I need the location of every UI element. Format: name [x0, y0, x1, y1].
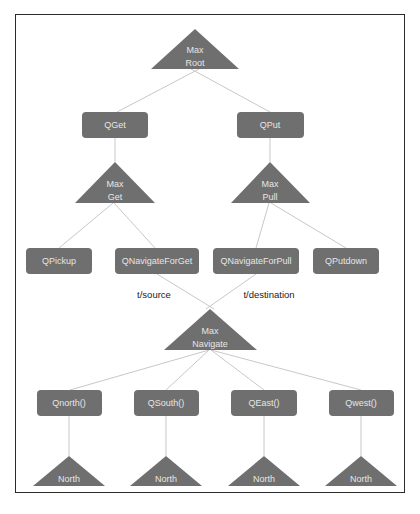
edge-maxnavigate-qwest [211, 350, 361, 390]
max-get-node: Max Get [75, 162, 155, 203]
node-label-line2: Navigate [192, 339, 228, 349]
edge-root-qput [191, 69, 270, 112]
max-root-node: Max Root [151, 29, 239, 69]
edge-label-destination: t/destination [243, 289, 294, 300]
edge-root-qget [117, 69, 199, 112]
qeast-node: QEast() [231, 390, 297, 416]
node-label: North [350, 474, 372, 484]
qnavigateforpull-node: QNavigateForPull [213, 248, 299, 274]
node-label: North [58, 474, 80, 484]
qwest-node: Qwest() [329, 390, 394, 416]
qnavigateforget-node: QNavigateForGet [115, 248, 199, 274]
qput-node: QPut [237, 112, 304, 138]
max-pull-node: Max Pull [231, 162, 310, 203]
node-label: QPut [260, 120, 281, 130]
node-label-line1: Max [261, 179, 279, 189]
edge-label-source: t/source [137, 289, 171, 300]
leaf-north-node-1: North [33, 456, 105, 486]
node-label: QPutdown [325, 256, 367, 266]
node-label-line1: Max [106, 179, 124, 189]
node-label-line2: Get [108, 192, 123, 202]
node-label: Qwest() [345, 398, 377, 408]
node-label: QGet [104, 120, 126, 130]
node-label: QPickup [42, 256, 76, 266]
node-label: QNavigateForPull [220, 256, 291, 266]
node-label: QEast() [248, 398, 279, 408]
node-label-line1: Max [186, 45, 204, 55]
node-label: Qnorth() [52, 398, 86, 408]
node-label-line1: Max [201, 326, 219, 336]
max-navigate-node: Max Navigate [164, 309, 257, 350]
leaf-north-node-2: North [130, 456, 202, 486]
qsouth-node: QSouth() [134, 390, 199, 416]
node-label-line2: Root [185, 58, 205, 68]
node-label: QSouth() [148, 398, 185, 408]
qpickup-node: QPickup [26, 248, 92, 274]
node-label: QNavigateForGet [122, 256, 193, 266]
qnorth-node: Qnorth() [37, 390, 102, 416]
edge-maxnavigate-qeast [211, 350, 264, 390]
edge-maxpull-qputdown [271, 203, 346, 248]
edge-maxpull-qnavigateforpull [256, 203, 269, 248]
leaf-north-node-4: North [325, 456, 397, 486]
node-label-line2: Pull [262, 192, 277, 202]
edge-maxget-qpickup [59, 203, 113, 248]
maxq-hierarchy-diagram: Max Root QGet QPut Max Get Max Pull QPic… [0, 0, 420, 514]
node-label: North [155, 474, 177, 484]
qget-node: QGet [82, 112, 148, 138]
leaf-north-node-3: North [228, 456, 300, 486]
node-label: North [253, 474, 275, 484]
qputdown-node: QPutdown [313, 248, 379, 274]
edge-maxget-qnavigateforget [114, 203, 155, 248]
